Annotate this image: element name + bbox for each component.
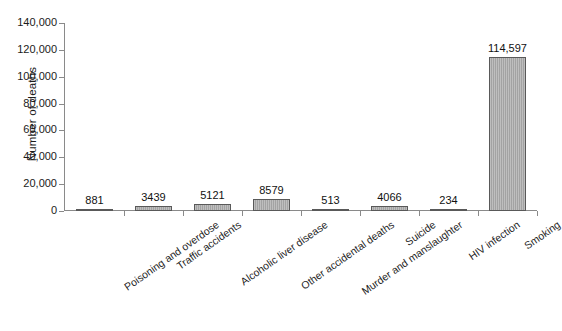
x-axis-tick xyxy=(419,211,420,216)
y-axis-tick xyxy=(59,50,64,51)
y-axis-tick xyxy=(59,184,64,185)
x-axis-category-label: Smoking xyxy=(522,219,562,251)
x-axis-tick xyxy=(124,211,125,216)
x-axis-category-label: Poisoning and overdose xyxy=(122,219,221,293)
y-axis-tick xyxy=(59,130,64,131)
x-axis-tick xyxy=(478,211,479,216)
x-axis-tick xyxy=(537,211,538,216)
x-axis-tick xyxy=(242,211,243,216)
x-axis-tick xyxy=(183,211,184,216)
y-axis-tick xyxy=(59,157,64,158)
y-axis-tick xyxy=(59,77,64,78)
y-axis-tick xyxy=(59,23,64,24)
y-axis-tick xyxy=(59,211,64,212)
y-axis-tick xyxy=(59,104,64,105)
x-axis-tick xyxy=(360,211,361,216)
x-axis-category-label: HIV infection xyxy=(466,219,521,262)
x-axis-tick xyxy=(301,211,302,216)
